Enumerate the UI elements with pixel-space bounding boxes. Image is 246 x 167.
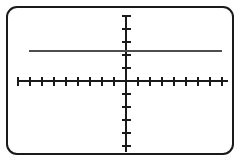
graph-screen [0,0,246,167]
coordinate-plane [0,0,246,167]
x-axis [18,77,228,86]
y-axis [122,15,131,152]
